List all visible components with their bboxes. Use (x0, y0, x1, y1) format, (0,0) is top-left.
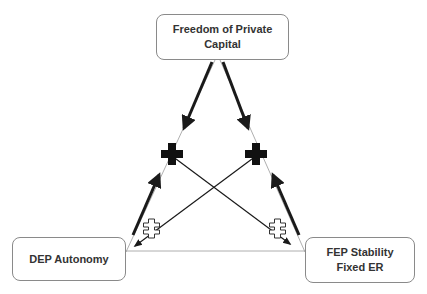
node-right-line-1: FEP Stability (326, 245, 393, 260)
node-left-line-1: DEP Autonomy (29, 252, 108, 267)
thick-arrows (133, 62, 299, 235)
not-equal-icon-left (144, 219, 160, 238)
node-fep-stability: FEP Stability Fixed ER (305, 237, 415, 283)
node-top-line-2: Capital (204, 37, 241, 52)
arrow-top-to-left-plus (184, 62, 212, 128)
node-right-line-2: Fixed ER (336, 260, 383, 275)
arrow-top-to-right-plus (223, 62, 248, 128)
node-freedom-of-private-capital: Freedom of Private Capital (156, 14, 289, 60)
node-top-line-1: Freedom of Private (173, 22, 273, 37)
not-equal-icon-right (270, 219, 286, 238)
node-dep-autonomy: DEP Autonomy (12, 237, 126, 281)
